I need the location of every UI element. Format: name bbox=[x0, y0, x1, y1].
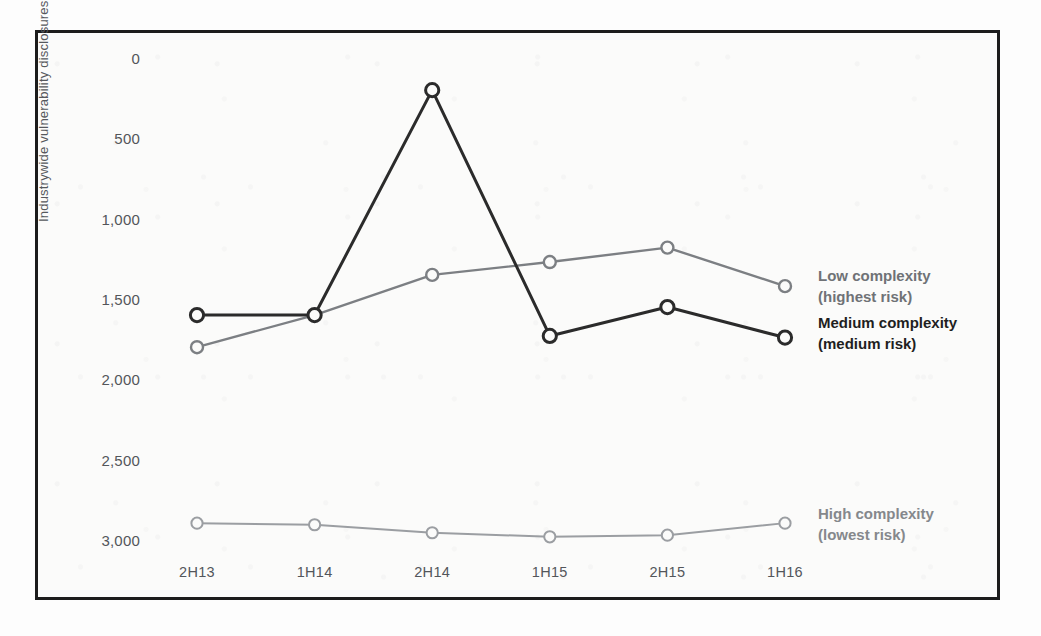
series-label-high-line2: (lowest risk) bbox=[818, 524, 934, 545]
series-label-medium-line1: Medium complexity bbox=[818, 312, 957, 333]
scanned-page: Industrywide vulnerability disclosures 3… bbox=[0, 0, 1041, 636]
x-axis-tick-label: 2H14 bbox=[414, 564, 450, 580]
series-label-high-line1: High complexity bbox=[818, 503, 934, 524]
x-axis-tick-label: 2H15 bbox=[649, 564, 685, 580]
series-label-low-line1: Low complexity bbox=[818, 265, 931, 286]
x-axis-tick-label: 1H14 bbox=[297, 564, 333, 580]
x-axis-tick-label: 1H16 bbox=[767, 564, 803, 580]
x-axis-tick-label: 2H13 bbox=[179, 564, 215, 580]
series-label-low-complexity: Low complexity (highest risk) bbox=[818, 265, 931, 307]
x-axis-tick-label: 1H15 bbox=[532, 564, 568, 580]
series-label-medium-complexity: Medium complexity (medium risk) bbox=[818, 312, 957, 354]
series-label-low-line2: (highest risk) bbox=[818, 286, 931, 307]
series-label-high-complexity: High complexity (lowest risk) bbox=[818, 503, 934, 545]
series-label-medium-line2: (medium risk) bbox=[818, 333, 957, 354]
